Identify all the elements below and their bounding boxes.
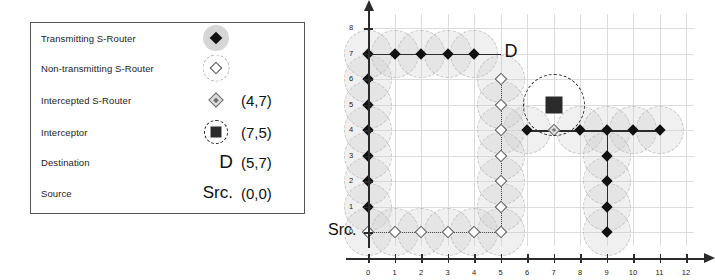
x-axis-arrowhead — [704, 253, 715, 263]
y-axis-tick — [364, 79, 373, 81]
x-axis-tick-label: 4 — [465, 268, 483, 277]
legend-symbol-source: Src. — [171, 183, 233, 203]
x-axis-tick — [474, 254, 476, 263]
legend-coord-interceptor: (7,5) — [241, 124, 272, 141]
legend-coord-destination: (5,7) — [241, 154, 272, 171]
legend-coord-source: (0,0) — [241, 185, 272, 202]
y-axis-tick — [364, 105, 373, 107]
route-segment-transmitting-route — [368, 54, 501, 56]
x-axis-tick — [580, 254, 582, 263]
legend-coord-intercepted: (4,7) — [241, 92, 272, 109]
y-axis-tick — [364, 28, 373, 30]
legend-row-destination: Destination D (5,7) — [31, 147, 304, 177]
x-axis-tick-label: 8 — [571, 268, 589, 277]
x-axis-tick — [633, 254, 635, 263]
y-axis-tick-label: 7 — [342, 49, 360, 58]
x-axis-tick — [607, 254, 609, 263]
y-axis-tick-label: 6 — [342, 74, 360, 83]
x-axis-tick — [554, 254, 556, 263]
legend-row-intercepted: Intercepted S-Router (4,7) — [31, 85, 304, 115]
x-axis-tick-label: 11 — [651, 268, 669, 277]
grid-line-horizontal — [362, 207, 694, 208]
legend-label-interceptor: Interceptor — [41, 127, 88, 138]
legend-symbol-interceptor — [199, 117, 233, 147]
legend-label-source: Source — [41, 188, 72, 199]
legend-symbol-destination: D — [191, 151, 233, 173]
y-axis-tick-label: 0 — [342, 227, 360, 236]
x-axis-tick-label: 3 — [439, 268, 457, 277]
y-axis-tick-label: 3 — [342, 151, 360, 160]
legend-symbol-non-transmitting-s-router — [199, 53, 233, 83]
y-axis-tick-label: 4 — [342, 125, 360, 134]
y-axis-tick — [364, 181, 373, 183]
legend-label-intercepted: Intercepted S-Router — [41, 95, 131, 106]
y-axis — [368, 10, 370, 248]
grid-line-horizontal — [362, 28, 694, 29]
legend-label-non-transmitting: Non-transmitting S-Router — [41, 63, 154, 74]
y-axis-tick-label: 8 — [342, 23, 360, 32]
x-axis-tick — [448, 254, 450, 263]
x-axis-tick — [660, 254, 662, 263]
x-axis-tick-label: 6 — [518, 268, 536, 277]
grid-plot: DSrc.0123456780123456789101112 — [330, 4, 696, 278]
x-axis-tick-label: 5 — [492, 268, 510, 277]
legend-row-non-transmitting: Non-transmitting S-Router — [31, 53, 304, 83]
legend-symbol-intercepted-s-router — [199, 85, 233, 115]
x-axis-tick — [527, 254, 529, 263]
x-axis-tick-label: 1 — [386, 268, 404, 277]
x-axis-tick-label: 0 — [359, 268, 377, 277]
legend-row-interceptor: Interceptor (7,5) — [31, 117, 304, 147]
grid-line-horizontal — [362, 79, 694, 80]
y-axis-tick — [364, 232, 373, 234]
legend-label-destination: Destination — [41, 157, 90, 168]
grid-line-horizontal — [362, 181, 694, 182]
x-axis-tick-label: 2 — [412, 268, 430, 277]
y-axis-tick — [364, 54, 373, 56]
y-axis-tick-label: 2 — [342, 176, 360, 185]
x-axis-tick — [395, 254, 397, 263]
x-axis-tick — [421, 254, 423, 263]
y-axis-tick-label: 5 — [342, 100, 360, 109]
y-axis-arrowhead — [364, 0, 374, 11]
x-axis-tick-label: 12 — [677, 268, 695, 277]
legend-row-transmitting: Transmitting S-Router — [31, 23, 304, 53]
x-axis — [346, 258, 704, 260]
grid-line-horizontal — [362, 156, 694, 157]
legend-symbol-transmitting-s-router — [199, 23, 233, 53]
x-axis-tick — [501, 254, 503, 263]
y-axis-tick — [364, 130, 373, 132]
x-axis-tick — [686, 254, 688, 263]
legend-row-source: Source Src. (0,0) — [31, 178, 304, 208]
y-axis-tick — [364, 156, 373, 158]
x-axis-tick — [368, 254, 370, 263]
y-axis-tick-label: 1 — [342, 202, 360, 211]
legend-label-transmitting: Transmitting S-Router — [41, 33, 136, 44]
destination-label: D — [505, 41, 518, 62]
legend-panel: Transmitting S-Router Non-transmitting S… — [30, 22, 305, 214]
plot-canvas: DSrc.0123456780123456789101112 — [330, 4, 696, 278]
y-axis-tick — [364, 207, 373, 209]
x-axis-tick-label: 7 — [545, 268, 563, 277]
x-axis-tick-label: 9 — [598, 268, 616, 277]
x-axis-tick-label: 10 — [624, 268, 642, 277]
